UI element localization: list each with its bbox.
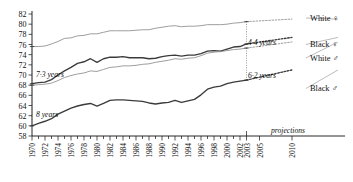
- y-tick-label: 80: [19, 20, 27, 29]
- y-tick-label: 68: [19, 81, 27, 90]
- life-expectancy-chart: 5860626466687072747678808219701972197419…: [0, 0, 353, 182]
- series-label-1: White ♀: [310, 14, 339, 23]
- x-tick-label: 2010: [288, 143, 297, 158]
- series-line-4: [32, 80, 247, 126]
- series-line-3: [32, 48, 247, 85]
- x-tick-label: 1996: [197, 143, 206, 158]
- gap-1970-female-label: 7·3 years: [36, 70, 64, 79]
- x-tick-label: 2003: [243, 143, 252, 158]
- x-tick-label: 1974: [54, 143, 63, 158]
- y-tick-label: 66: [19, 91, 27, 100]
- x-tick-label: 2000: [223, 143, 232, 158]
- y-tick-label: 70: [19, 71, 27, 80]
- series-projection-1: [247, 19, 293, 22]
- x-tick-label: 1978: [80, 143, 89, 158]
- y-tick-label: 76: [19, 41, 27, 50]
- y-tick-label: 60: [19, 122, 27, 131]
- chart-canvas: 5860626466687072747678808219701972197419…: [0, 0, 353, 182]
- x-tick-label: 1998: [210, 143, 219, 158]
- x-tick-label: 1994: [184, 143, 193, 158]
- series-line-1: [32, 22, 247, 47]
- series-label-2: Black ♀: [310, 40, 338, 49]
- y-tick-label: 62: [19, 112, 27, 121]
- x-tick-label: 1986: [132, 143, 141, 158]
- y-tick-label: 72: [19, 61, 27, 70]
- gap-2003-female-label: 4·4 years: [248, 38, 276, 47]
- x-tick-label: 1988: [145, 143, 154, 158]
- x-tick-label: 1990: [158, 143, 167, 158]
- x-tick-label: 2005: [256, 143, 265, 158]
- y-tick-label: 78: [19, 30, 27, 39]
- x-tick-label: 1980: [93, 143, 102, 158]
- y-tick-label: 58: [19, 132, 27, 141]
- series-label-4: Black ♂: [310, 84, 338, 93]
- x-tick-label: 1972: [41, 143, 50, 158]
- x-tick-label: 1976: [67, 143, 76, 158]
- projections-note: projections: [270, 126, 305, 135]
- y-tick-label: 64: [19, 102, 27, 111]
- x-tick-label: 1984: [119, 143, 128, 158]
- gap-2003-male-label: 6·2 years: [248, 71, 276, 80]
- x-tick-label: 1992: [171, 143, 180, 158]
- x-tick-label: 1982: [106, 143, 115, 158]
- series-label-3: White ♂: [310, 54, 339, 63]
- x-tick-label: 1970: [28, 143, 37, 158]
- y-tick-label: 74: [19, 51, 27, 60]
- gap-1970-male-label: 8 years: [36, 110, 58, 119]
- y-tick-label: 82: [19, 10, 27, 19]
